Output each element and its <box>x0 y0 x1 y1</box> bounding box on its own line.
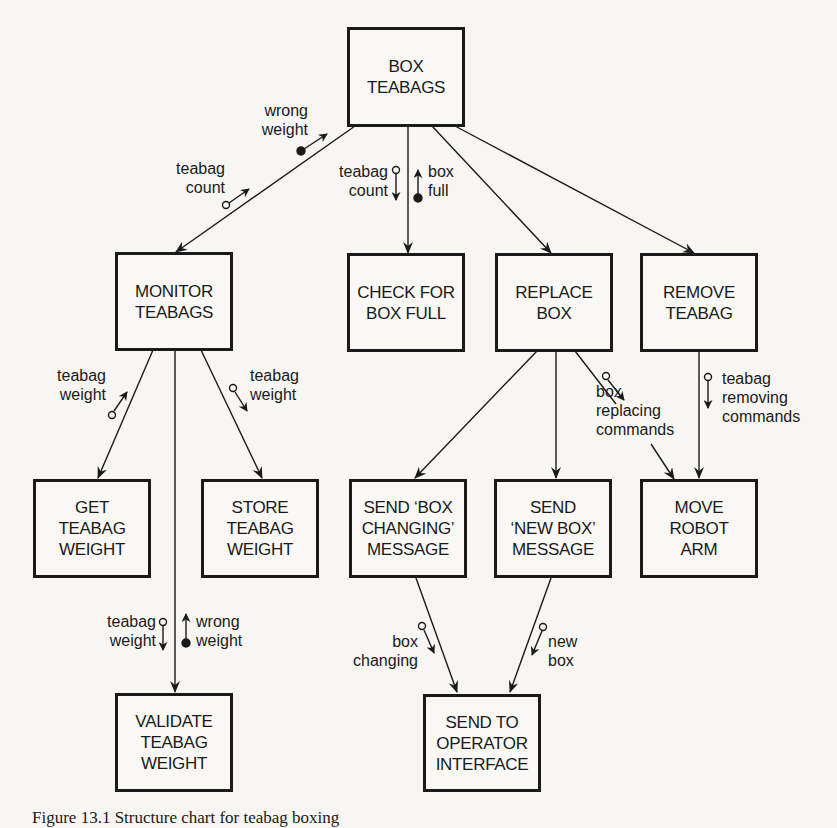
module-send-box-changing-message: SEND ‘BOX CHANGING’ MESSAGE <box>349 479 467 578</box>
couple-label-box-changing: box changing <box>340 632 418 670</box>
data-couple-teabag-weight-get <box>109 392 128 419</box>
module-send-new-box-message: SEND ‘NEW BOX’ MESSAGE <box>494 479 612 578</box>
figure-caption: Figure 13.1 Structure chart for teabag b… <box>32 808 339 828</box>
connector-replace-to-robot-arm-b <box>651 444 674 479</box>
data-couple-teabag-count-center <box>393 167 400 201</box>
couple-label-wrong-weight-validate: wrong weight <box>196 612 266 650</box>
couple-label-teabag-weight-get: teabag weight <box>38 366 106 404</box>
module-monitor-teabags: MONITOR TEABAGS <box>115 252 233 351</box>
connector-monitor-to-get <box>98 350 153 478</box>
couple-label-teabag-weight-store: teabag weight <box>250 366 320 404</box>
data-couple-teabag-count-left <box>223 189 250 209</box>
connector-new-box-to-operator <box>510 578 551 692</box>
data-couple-new-box <box>532 624 547 656</box>
control-flag-wrong-weight-validate <box>182 614 190 647</box>
data-couple-teabag-removing-commands <box>705 374 712 409</box>
connector-box-changing-to-operator <box>416 578 457 692</box>
module-get-teabag-weight: GET TEABAG WEIGHT <box>33 479 151 578</box>
data-couple-teabag-weight-store <box>230 385 248 412</box>
module-remove-teabag: REMOVE TEABAG <box>640 253 758 352</box>
module-send-to-operator-interface: SEND TO OPERATOR INTERFACE <box>423 694 541 792</box>
control-flag-box-full <box>414 170 422 202</box>
couple-label-teabag-count-left: teabag count <box>150 159 225 197</box>
couple-label-wrong-weight-top: wrong weight <box>248 101 308 139</box>
couple-label-teabag-count-center: teabag count <box>320 162 388 200</box>
module-move-robot-arm: MOVE ROBOT ARM <box>640 479 758 578</box>
data-couple-box-changing <box>419 623 435 654</box>
module-box-teabags: BOX TEABAGS <box>347 27 465 127</box>
module-validate-teabag-weight: VALIDATE TEABAG WEIGHT <box>115 693 233 792</box>
data-couple-teabag-weight-validate <box>160 619 167 651</box>
couple-label-box-replacing-commands: box replacing commands <box>596 382 686 439</box>
module-check-for-box-full: CHECK FOR BOX FULL <box>347 253 465 352</box>
module-replace-box: REPLACE BOX <box>495 253 613 352</box>
couple-label-teabag-weight-validate: teabag weight <box>90 612 156 650</box>
connector-replace-to-box-changing <box>415 351 537 478</box>
module-store-teabag-weight: STORE TEABAG WEIGHT <box>201 479 319 578</box>
couple-label-new-box: new box <box>548 632 598 670</box>
couple-label-box-full: box full <box>428 162 478 200</box>
couple-label-teabag-removing-commands: teabag removing commands <box>722 369 822 426</box>
